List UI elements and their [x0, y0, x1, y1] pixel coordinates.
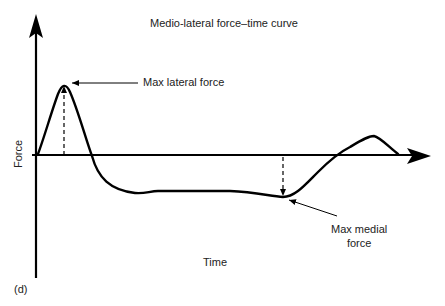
x-axis-label: Time [203, 256, 227, 268]
panel-label: (d) [14, 283, 27, 295]
max-medial-label-line1: Max medial [331, 222, 387, 236]
max-medial-pointer [289, 200, 337, 216]
force-time-curve [38, 86, 398, 197]
max-medial-label-line2: force [331, 236, 387, 250]
max-lateral-label: Max lateral force [143, 76, 224, 88]
max-medial-dash-arrow-icon [280, 189, 286, 196]
y-axis-label: Force [12, 140, 24, 168]
diagram-title: Medio-lateral force–time curve [150, 17, 298, 29]
max-medial-label: Max medial force [331, 222, 387, 250]
